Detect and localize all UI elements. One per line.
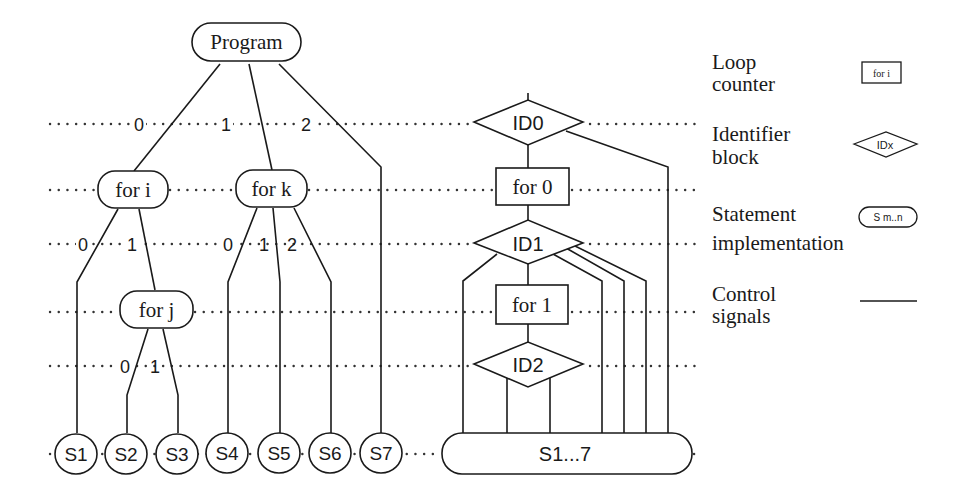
counter-label: for 1 [512,293,552,317]
statement-s6[interactable]: S6 [309,433,351,473]
node-label: for k [251,177,292,201]
statement-label: S4 [215,443,239,464]
statement-label: S5 [267,443,290,464]
statement-label: S1 [64,444,87,465]
branch-label-for-i-1: 1 [127,235,137,255]
legend-symbol-text: IDx [877,139,894,151]
statement-s5[interactable]: S5 [258,433,300,473]
legend-symbol-text: for i [873,68,890,79]
tree-node-for-i[interactable]: for i [98,171,168,208]
loop-counter-for0[interactable]: for 0 [496,168,569,205]
tree-node-program[interactable]: Program [192,23,301,61]
node-label: for j [139,298,175,322]
legend-label-line1: Control [712,282,776,306]
statement-label: S7 [369,443,392,464]
edge-for-i-for-j [139,209,155,290]
statement-label: S2 [114,444,137,465]
legend-item-statement-implementation: Statement implementation S m..n [712,202,917,255]
legend-label-line2: block [712,145,759,169]
legend-symbol-text: S m..n [874,212,903,223]
statement-s7[interactable]: S7 [360,433,402,473]
signal-id1-right-a [553,254,602,433]
statement-label: S6 [318,443,341,464]
branch-label-for-k-1: 1 [259,235,269,255]
signal-id0-impl [566,131,668,433]
signal-id1-right-b [566,248,624,433]
identifier-label: ID0 [512,112,543,134]
branch-label-for-k-2: 2 [287,235,297,255]
node-label: for i [115,178,151,202]
counter-label: for 0 [512,175,552,199]
branch-label-program-1: 1 [221,115,231,135]
statement-s2[interactable]: S2 [105,434,147,474]
legend-item-identifier-block: Identifier block IDx [712,122,917,169]
branch-label-for-j-0: 0 [120,357,130,377]
edge-for-k-s5 [273,208,280,433]
legend-item-loop-counter: Loop counter for i [712,50,901,96]
statement-implementation-block[interactable]: S1...7 [442,433,692,474]
branch-label-for-j-1: 1 [150,357,160,377]
statement-label: S3 [165,444,188,465]
legend-item-control-signals: Control signals [712,282,917,328]
control-signals [463,93,668,433]
identifier-label: ID2 [512,354,543,376]
identifier-block-id1[interactable]: ID1 [474,220,583,264]
legend-label-line1: Identifier [712,122,790,146]
branch-labels: 0 1 2 0 1 0 1 2 0 1 [76,114,314,377]
edge-program-for-i [134,64,220,171]
branch-label-for-k-0: 0 [223,235,233,255]
edge-program-for-k [249,64,272,170]
statement-s1[interactable]: S1 [55,434,97,474]
node-label: Program [210,30,282,54]
signal-id1-left [463,254,497,433]
legend: Loop counter for i Identifier block IDx … [712,50,917,328]
identifier-label: ID1 [512,233,543,255]
diagram-canvas: Program for i for k for j 0 1 2 0 1 0 1 … [0,0,964,496]
identifier-block-id0[interactable]: ID0 [474,100,583,145]
tree-node-for-k[interactable]: for k [236,170,307,207]
edge-for-k-s6 [294,208,331,433]
statement-s4[interactable]: S4 [206,433,248,473]
legend-label-line2: signals [712,304,770,328]
branch-label-program-0: 0 [134,115,144,135]
implementation-label: S1...7 [539,443,591,465]
legend-label-line1: Loop [712,50,756,74]
legend-label-line1: Statement [712,202,796,226]
edge-for-j-s3 [163,329,178,433]
statement-leaves: S1 S2 S3 S4 S5 S6 S7 [55,433,402,474]
loop-counter-for1[interactable]: for 1 [496,285,568,324]
branch-label-program-2: 2 [301,115,311,135]
legend-label-line2: counter [712,72,775,96]
statement-s3[interactable]: S3 [156,434,198,474]
branch-label-for-i-0: 0 [78,235,88,255]
edge-for-j-s2 [127,329,148,433]
tree-node-for-j[interactable]: for j [120,291,193,328]
identifier-block-id2[interactable]: ID2 [474,342,583,387]
legend-label-line2: implementation [712,231,844,255]
